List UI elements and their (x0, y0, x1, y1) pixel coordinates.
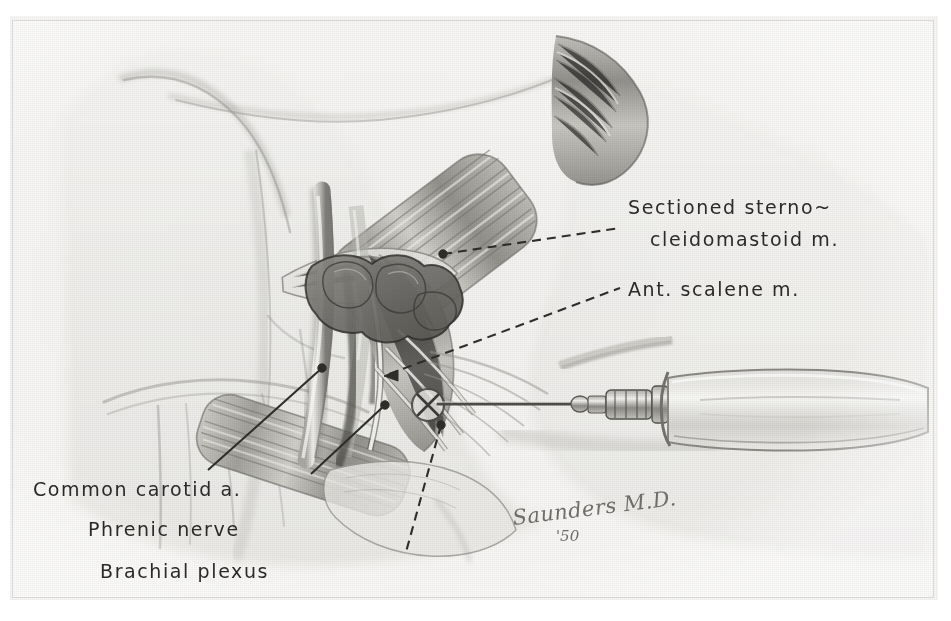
label-layer: Sectioned sterno~ cleidomastoid m. Ant. … (0, 0, 951, 621)
label-sectioned-sternocleidomastoid-line2: cleidomastoid m. (650, 228, 839, 250)
label-sectioned-sternocleidomastoid-line1: Sectioned sterno~ (628, 196, 832, 218)
label-phrenic-nerve: Phrenic nerve (88, 518, 240, 540)
artist-signature: Saunders M.D. (511, 486, 677, 530)
label-ant-scalene: Ant. scalene m. (628, 278, 800, 300)
artist-signature-year: '50 (556, 527, 579, 545)
label-brachial-plexus: Brachial plexus (100, 560, 269, 582)
label-common-carotid: Common carotid a. (33, 478, 241, 500)
illustration-plate: Sectioned sterno~ cleidomastoid m. Ant. … (0, 0, 951, 621)
